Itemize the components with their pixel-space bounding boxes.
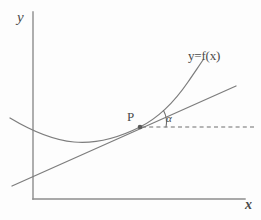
y-axis-label: y: [17, 10, 24, 25]
tangency-point-dot: [138, 125, 143, 130]
x-axis-label: x: [245, 198, 252, 212]
function-curve: [10, 60, 203, 142]
figure-container: y x P α y=f(x): [0, 0, 261, 220]
function-equation-label: y=f(x): [188, 49, 220, 62]
point-p-label: P: [127, 110, 134, 123]
angle-alpha-label: α: [166, 113, 172, 124]
